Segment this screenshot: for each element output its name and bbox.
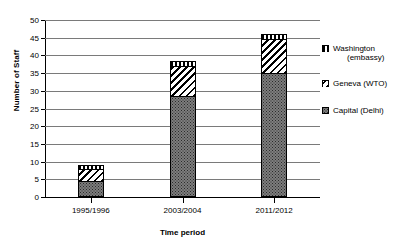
y-axis-tick bbox=[41, 162, 45, 163]
bar-segment-geneva bbox=[261, 39, 287, 73]
y-axis-tick bbox=[41, 38, 45, 39]
y-axis-tick-label: 50 bbox=[30, 16, 39, 25]
y-axis-tick bbox=[41, 144, 45, 145]
y-axis-tick-label: 35 bbox=[30, 69, 39, 78]
y-axis-tick-label: 10 bbox=[30, 157, 39, 166]
legend-item-capital: Capital (Delhi) bbox=[322, 106, 411, 115]
washington-swatch-icon bbox=[322, 45, 329, 52]
x-axis-tick-label: 1995/1996 bbox=[72, 206, 110, 215]
x-axis-tick bbox=[274, 198, 275, 203]
x-axis-tick bbox=[91, 198, 92, 203]
chart-legend: Washington (embassy) Geneva (WTO) Capita… bbox=[322, 44, 411, 132]
legend-label-capital: Capital (Delhi) bbox=[333, 106, 384, 115]
y-axis-tick bbox=[41, 126, 45, 127]
y-axis-tick-label: 15 bbox=[30, 139, 39, 148]
y-axis-tick bbox=[41, 91, 45, 92]
y-axis-tick-label: 20 bbox=[30, 122, 39, 131]
y-axis-tick-label: 0 bbox=[35, 193, 39, 202]
y-axis-tick bbox=[41, 55, 45, 56]
bar-segment-capital bbox=[261, 73, 287, 197]
y-axis-tick-label: 40 bbox=[30, 51, 39, 60]
gridline bbox=[45, 20, 320, 21]
y-axis-title: Number of Staff bbox=[12, 21, 21, 141]
x-axis-tick bbox=[183, 198, 184, 203]
legend-item-washington: Washington (embassy) bbox=[322, 44, 411, 62]
y-axis-tick bbox=[41, 179, 45, 180]
bar-2011-2012 bbox=[261, 34, 287, 197]
plot-area: 051015202530354045501995/19962003/200420… bbox=[45, 20, 320, 198]
bar-2003-2004 bbox=[170, 61, 196, 197]
x-axis-tick-label: 2011/2012 bbox=[256, 206, 293, 215]
bar-1995-1996 bbox=[78, 165, 104, 197]
bar-segment-geneva bbox=[78, 169, 104, 181]
y-axis-tick-label: 45 bbox=[30, 33, 39, 42]
bar-segment-capital bbox=[170, 96, 196, 197]
x-axis-tick-label: 2003/2004 bbox=[164, 206, 202, 215]
y-axis-tick bbox=[41, 20, 45, 21]
y-axis-tick bbox=[41, 73, 45, 74]
y-axis-tick bbox=[41, 109, 45, 110]
bar-segment-geneva bbox=[170, 66, 196, 96]
y-axis-tick-label: 25 bbox=[30, 104, 39, 113]
bar-segment-capital bbox=[78, 181, 104, 197]
legend-label-geneva: Geneva (WTO) bbox=[333, 79, 387, 88]
y-axis-tick-label: 5 bbox=[35, 175, 39, 184]
x-axis-title: Time period bbox=[45, 228, 320, 237]
legend-label-washington: Washington (embassy) bbox=[333, 44, 384, 62]
stacked-bar-chart: Number of Staff 051015202530354045501995… bbox=[0, 0, 411, 252]
y-axis-tick-label: 30 bbox=[30, 86, 39, 95]
capital-swatch-icon bbox=[322, 107, 329, 114]
geneva-swatch-icon bbox=[322, 80, 329, 87]
y-axis-tick bbox=[41, 197, 45, 198]
legend-item-geneva: Geneva (WTO) bbox=[322, 79, 411, 88]
